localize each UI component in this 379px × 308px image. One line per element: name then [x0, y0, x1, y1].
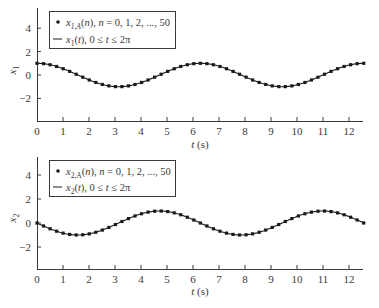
x-tick-label: 12 — [344, 125, 355, 137]
legend-marker-dot-icon — [56, 169, 60, 173]
y-tick-label: 2 — [26, 46, 32, 58]
data-point — [362, 62, 365, 65]
data-point — [245, 76, 248, 79]
x-tick-label: 4 — [138, 125, 144, 137]
data-point — [329, 70, 332, 73]
data-point — [277, 85, 280, 88]
data-point — [186, 216, 189, 219]
data-point — [323, 209, 326, 212]
data-point — [205, 62, 208, 65]
data-point — [153, 210, 156, 213]
data-point — [186, 63, 189, 66]
data-point — [88, 232, 91, 235]
data-point — [42, 62, 45, 65]
data-point — [231, 233, 234, 236]
data-point — [94, 231, 97, 234]
data-point — [120, 85, 123, 88]
data-point — [179, 65, 182, 68]
series-markers — [35, 209, 365, 236]
x-tick-label: 7 — [216, 125, 222, 137]
data-point — [107, 84, 110, 87]
series-markers — [35, 62, 365, 89]
x-tick-label: 2 — [86, 125, 92, 137]
data-point — [251, 78, 254, 81]
plot-x2: 0123456789101112 420−2 t (s) x2 x2,A(n),… — [6, 157, 365, 298]
data-point — [114, 223, 117, 226]
x-tick-label: 3 — [112, 125, 118, 137]
x-tick-label: 5 — [164, 125, 170, 137]
y-tick-label: −2 — [19, 92, 31, 104]
data-point — [284, 220, 287, 223]
data-point — [349, 216, 352, 219]
legend: x2,A(n), n = 0, 1, 2, ..., 50 x2(t), 0 ≤… — [50, 161, 176, 197]
data-point — [35, 221, 38, 224]
data-point — [199, 62, 202, 65]
data-point — [343, 213, 346, 216]
x-tick-label: 1 — [60, 273, 66, 285]
data-point — [212, 63, 215, 66]
y-axis-title: x1 — [6, 66, 21, 76]
data-point — [81, 233, 84, 236]
y-axis: 420−2 — [19, 157, 41, 269]
data-point — [153, 76, 156, 79]
data-point — [343, 65, 346, 68]
x-tick-label: 8 — [242, 273, 248, 285]
data-point — [55, 230, 58, 233]
data-point — [133, 214, 136, 217]
data-point — [225, 67, 228, 70]
data-point — [160, 209, 163, 212]
data-point — [68, 70, 71, 73]
y-tick-label: 4 — [26, 22, 32, 34]
x-tick-label: 11 — [318, 273, 329, 285]
data-point — [94, 81, 97, 84]
data-point — [362, 221, 365, 224]
data-point — [107, 226, 110, 229]
data-point — [212, 227, 215, 230]
data-point — [238, 73, 241, 76]
data-point — [166, 70, 169, 73]
data-point — [192, 62, 195, 65]
x-tick-label: 3 — [112, 273, 118, 285]
data-point — [127, 217, 130, 220]
data-point — [75, 233, 78, 236]
data-point — [62, 232, 65, 235]
x-tick-label: 2 — [86, 273, 92, 285]
data-point — [81, 76, 84, 79]
x-tick-label: 11 — [318, 125, 329, 137]
x-tick-label: 6 — [190, 125, 196, 137]
data-point — [101, 228, 104, 231]
x-axis-title: t (s) — [191, 285, 209, 298]
data-point — [277, 223, 280, 226]
legend: x1,A(n), n = 0, 1, 2, ..., 50 x1(t), 0 ≤… — [50, 12, 176, 49]
data-point — [238, 233, 241, 236]
data-point — [173, 67, 176, 70]
y-tick-label: 0 — [26, 217, 32, 229]
data-point — [218, 65, 221, 68]
data-point — [88, 78, 91, 81]
data-point — [68, 233, 71, 236]
y-axis-title: x2 — [6, 214, 21, 224]
x-tick-label: 10 — [292, 273, 304, 285]
data-point — [160, 73, 163, 76]
data-point — [75, 73, 78, 76]
data-point — [290, 84, 293, 87]
data-point — [231, 70, 234, 73]
y-tick-label: −2 — [19, 241, 31, 253]
data-point — [271, 84, 274, 87]
data-point — [199, 221, 202, 224]
data-point — [173, 211, 176, 214]
data-point — [316, 76, 319, 79]
data-point — [35, 62, 38, 65]
data-point — [120, 220, 123, 223]
data-point — [297, 83, 300, 86]
data-point — [166, 210, 169, 213]
data-point — [251, 232, 254, 235]
x-tick-label: 6 — [190, 273, 196, 285]
x-tick-label: 0 — [34, 273, 40, 285]
data-point — [179, 213, 182, 216]
data-point — [356, 218, 359, 221]
series-line — [37, 63, 364, 86]
x-tick-label: 0 — [34, 125, 40, 137]
x-axis: 0123456789101112 — [34, 265, 363, 285]
y-tick-label: 2 — [26, 193, 32, 205]
